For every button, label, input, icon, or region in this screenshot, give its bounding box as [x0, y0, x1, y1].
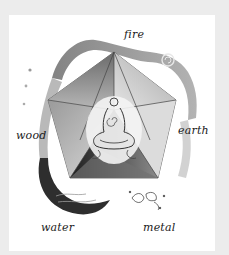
metal-flowers: [129, 191, 165, 210]
label-wood: wood: [16, 129, 47, 142]
label-metal: metal: [143, 221, 175, 234]
meditating-figure: [86, 96, 142, 164]
label-earth: earth: [178, 124, 209, 137]
label-fire: fire: [124, 28, 144, 41]
label-water: water: [41, 221, 74, 234]
